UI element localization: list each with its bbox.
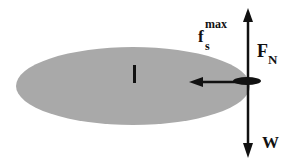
friction-label: fmaxs <box>198 28 204 45</box>
weight-arrowhead-icon <box>243 143 253 158</box>
normal-force-label: FN <box>257 42 277 60</box>
object-ellipse <box>16 47 250 125</box>
contact-point <box>233 77 261 85</box>
center-mark <box>133 65 136 83</box>
weight-label: W <box>262 134 279 151</box>
free-body-diagram <box>0 0 288 165</box>
normal-arrowhead-icon <box>243 8 253 22</box>
